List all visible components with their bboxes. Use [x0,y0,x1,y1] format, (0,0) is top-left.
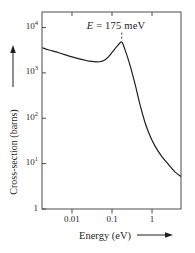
y-tick-label: 103 [14,66,38,77]
x-axis-arrowhead-icon [165,232,173,238]
y-tick-label: 1 [14,203,38,214]
x-axis-label: Energy (eV) [79,230,131,241]
cross-section-figure: E = 175 meV Cross-section (barns) Energy… [0,0,195,253]
x-tick-label: 0.01 [64,214,80,225]
y-tick-label: 102 [14,112,38,123]
y-axis-arrowhead-icon [10,45,16,53]
y-tick-label: 104 [14,21,38,32]
x-tick-label: 0.1 [106,214,117,225]
annotation-value: = 175 meV [93,20,145,31]
plot-frame [42,12,181,209]
cross-section-curve [42,42,181,177]
x-axis-title: Energy (eV) [79,230,131,241]
y-tick-label: 101 [14,157,38,168]
annotation-symbol: E [87,20,94,31]
resonance-annotation: E = 175 meV [87,20,146,31]
x-tick-label: 1 [150,214,155,225]
plot-area [0,0,195,253]
